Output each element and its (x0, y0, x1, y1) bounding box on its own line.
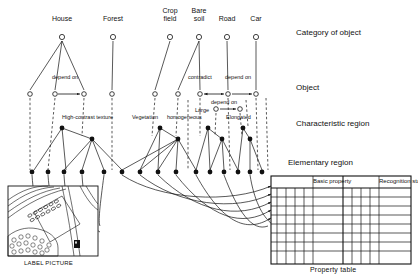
elementary-region-nodes (30, 170, 265, 175)
relation-label-depend-on-house: depend on (52, 74, 78, 80)
relation-label-depend-on-road: depend on (225, 74, 251, 80)
tier-label-characteristic-region: Characteristic region (296, 119, 369, 128)
label-picture-panel (8, 186, 98, 256)
category-label-forest-text: Forest (93, 15, 133, 23)
label-picture-caption: LABEL PICTURE (24, 260, 73, 266)
property-table-caption: Property table (310, 266, 356, 273)
category-label-car: Car (236, 15, 276, 23)
category-label-house: House (42, 15, 82, 23)
characteristic-label-large: Large (176, 107, 228, 113)
category-label-forest: Forest (93, 15, 133, 23)
relation-label-contradict: contradict (188, 74, 212, 80)
relation-label-depend-on-lower: depend on (211, 99, 237, 105)
characteristic-label-vegetation: Vegetation (132, 114, 158, 120)
characteristic-label-high-contrast-texture: High-contrast texture (62, 114, 113, 120)
category-label-car-text: Car (236, 15, 276, 23)
characteristic-fan-lines (34, 128, 262, 170)
category-nodes (59, 34, 258, 39)
category-label-house-text: House (42, 15, 82, 23)
characteristic-region-nodes (60, 126, 253, 142)
diagram-root: House Forest Crop field Bare soil Road C… (0, 0, 418, 279)
diagram-graph (0, 0, 418, 279)
category-label-bare-soil-line1: Bare (179, 7, 219, 15)
tier-label-elementary-region: Elementary region (288, 158, 353, 167)
tier-label-category-of-object: Category of object (296, 28, 361, 37)
tier-label-object: Object (296, 83, 319, 92)
characteristic-label-large-homogeneous: homogeneous (167, 114, 202, 120)
characteristic-label-elongated: Elongated (226, 114, 251, 120)
property-table-grid (271, 176, 411, 264)
arcs-to-property-table (122, 175, 272, 227)
